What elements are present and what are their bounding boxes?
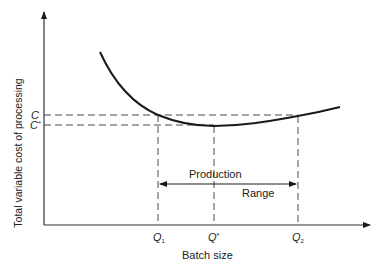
range-label: Range — [242, 187, 274, 199]
y-tick-c-star: C* — [30, 119, 41, 131]
production-label: Production — [189, 168, 242, 180]
cost-curve-diagram: Production Range C C* Q1 Q* Q2 Batch siz… — [0, 0, 381, 267]
x-tick-q1: Q1 — [153, 231, 166, 244]
y-axis-label: Total variable cost of processing — [12, 78, 24, 228]
x-tick-q2: Q2 — [292, 231, 305, 244]
x-tick-q-star: Q* — [208, 231, 220, 243]
x-axis-label: Batch size — [182, 249, 233, 261]
